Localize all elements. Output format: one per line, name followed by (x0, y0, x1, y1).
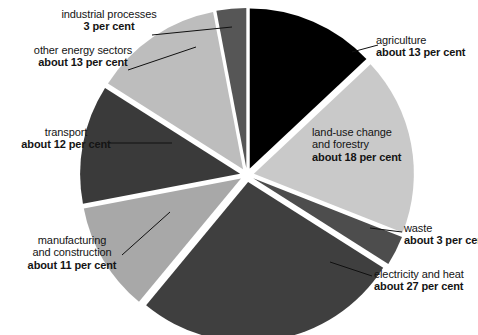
label-manufacturing-construction-name-line1: manufacturing (6, 234, 138, 246)
label-other-energy-sectors: other energy sectors about 13 per cent (2, 44, 164, 69)
label-transport: transport about 12 per cent (0, 126, 132, 151)
label-landuse-change-forestry: land-use change and forestry about 18 pe… (312, 126, 416, 163)
label-waste-value: about 3 per cent (404, 234, 476, 246)
label-electricity-heat: electricity and heat about 27 per cent (374, 268, 478, 293)
label-agriculture-value: about 13 per cent (376, 46, 476, 58)
label-manufacturing-construction-value: about 11 per cent (6, 259, 138, 271)
label-agriculture: agriculture about 13 per cent (376, 34, 476, 59)
label-electricity-heat-value: about 27 per cent (374, 280, 478, 292)
label-agriculture-name: agriculture (376, 34, 476, 46)
label-transport-value: about 12 per cent (0, 138, 132, 150)
chart-canvas: Worldwide GHG Emissions (0, 0, 478, 335)
label-other-energy-sectors-name: other energy sectors (2, 44, 164, 56)
label-transport-name: transport (0, 126, 132, 138)
label-manufacturing-construction: manufacturing and construction about 11 … (6, 234, 138, 271)
label-other-energy-sectors-value: about 13 per cent (2, 56, 164, 68)
label-waste-name: waste (404, 222, 476, 234)
label-electricity-heat-name: electricity and heat (374, 268, 478, 280)
label-industrial-processes-name: industrial processes (16, 8, 202, 20)
label-landuse-change-forestry-name-line1: land-use change (312, 126, 416, 138)
label-waste: waste about 3 per cent (404, 222, 476, 247)
label-landuse-change-forestry-value: about 18 per cent (312, 151, 416, 163)
label-manufacturing-construction-name-line2: and construction (6, 246, 138, 258)
label-industrial-processes-value: 3 per cent (16, 20, 202, 32)
leader-line-agriculture (352, 45, 378, 52)
label-industrial-processes: industrial processes 3 per cent (16, 8, 202, 33)
label-landuse-change-forestry-name-line2: and forestry (312, 138, 416, 150)
